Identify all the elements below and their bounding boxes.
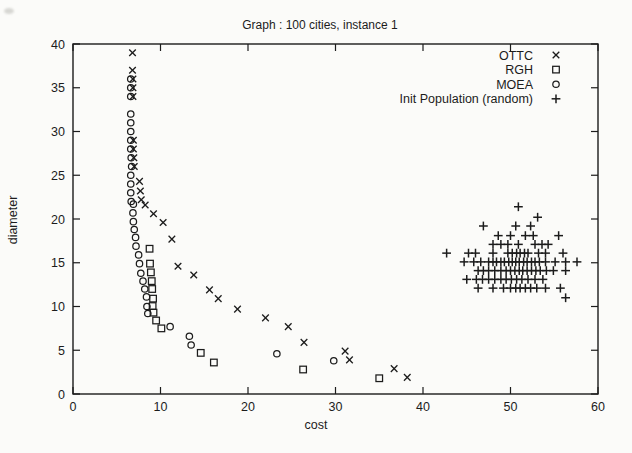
data-point [136, 178, 143, 185]
data-point [471, 249, 480, 258]
data-point [462, 275, 471, 284]
data-point [460, 257, 469, 266]
data-point [532, 284, 541, 293]
data-point [346, 357, 353, 364]
data-point [142, 202, 149, 209]
square-glyph [211, 359, 218, 366]
y-tick-label: 40 [51, 38, 65, 52]
data-point [514, 240, 523, 249]
data-point [129, 67, 136, 74]
data-point [561, 293, 570, 302]
data-point [128, 128, 134, 134]
square-glyph [158, 325, 165, 332]
y-tick-label: 30 [51, 125, 65, 139]
legend-marker-square-icon [553, 66, 560, 73]
x-tick-label: 40 [416, 400, 430, 414]
legend-label: RGH [505, 63, 533, 77]
chart-title: Graph : 100 cities, instance 1 [242, 18, 398, 32]
legend-entry-ottc: OTTC [499, 49, 559, 63]
data-point [197, 350, 204, 357]
circle-glyph [167, 323, 173, 329]
data-point [549, 266, 558, 275]
data-point [556, 284, 565, 293]
y-tick-label: 20 [51, 213, 65, 227]
legend-marker-x-icon [553, 52, 560, 59]
data-point [285, 323, 292, 330]
circle-glyph [135, 252, 141, 258]
scatter-plot: Graph : 100 cities, instance 1 cost diam… [0, 0, 632, 453]
legend-label: Init Population (random) [400, 92, 533, 106]
y-tick-label: 35 [51, 81, 65, 95]
scanned-figure-page: Graph : 100 cities, instance 1 cost diam… [0, 0, 632, 453]
square-glyph [148, 278, 155, 285]
data-point [150, 210, 157, 217]
data-point [573, 257, 582, 266]
circle-glyph [128, 111, 134, 117]
data-point [521, 231, 530, 240]
data-point [404, 374, 411, 381]
legend: OTTCRGHMOEAInit Population (random) [400, 49, 561, 107]
data-point [153, 317, 160, 324]
data-point [489, 240, 498, 249]
circle-glyph [188, 342, 194, 348]
square-glyph [150, 295, 157, 302]
data-point [442, 249, 451, 258]
data-point [300, 366, 307, 373]
data-point [376, 375, 383, 382]
data-point [526, 222, 535, 231]
x-tick-label: 10 [154, 400, 168, 414]
data-point [158, 325, 165, 332]
data-point [511, 222, 520, 231]
data-point [129, 49, 136, 56]
circle-glyph [331, 358, 337, 364]
y-tick-label: 15 [51, 256, 65, 270]
circle-glyph [133, 243, 139, 249]
y-axis-label: diameter [6, 196, 20, 245]
data-point [169, 236, 176, 243]
y-tick-label: 25 [51, 169, 65, 183]
circle-glyph [138, 270, 144, 276]
circle-glyph [553, 81, 559, 87]
circle-glyph [131, 226, 137, 232]
circle-glyph [143, 294, 149, 300]
data-point [554, 231, 563, 240]
data-point [533, 213, 542, 222]
data-point [559, 249, 568, 258]
y-tick-label: 5 [58, 344, 65, 358]
data-point [331, 358, 337, 364]
data-point [551, 257, 560, 266]
legend-marker-circle-icon [553, 81, 559, 87]
series-ottc [129, 49, 410, 380]
data-point [160, 219, 167, 226]
data-point [140, 278, 146, 284]
circle-glyph [128, 190, 134, 196]
data-point [541, 257, 550, 266]
data-point [175, 263, 182, 270]
legend-label: OTTC [499, 49, 533, 63]
data-point [544, 240, 553, 249]
data-point [538, 275, 547, 284]
x-tick-label: 50 [504, 400, 518, 414]
data-point [167, 323, 173, 329]
circle-glyph [128, 120, 134, 126]
circle-glyph [128, 181, 134, 187]
data-point [148, 278, 155, 285]
data-point [128, 190, 134, 196]
data-point [142, 286, 148, 292]
data-point [541, 284, 550, 293]
square-glyph [376, 375, 383, 382]
data-point [489, 249, 498, 258]
data-point [206, 287, 213, 294]
square-glyph [153, 317, 160, 324]
x-axis-label: cost [305, 418, 328, 432]
x-tick-label: 0 [70, 400, 77, 414]
data-point [489, 284, 498, 293]
legend-label: MOEA [496, 78, 533, 92]
data-point [130, 210, 136, 216]
data-point [541, 249, 550, 258]
y-tick-label: 10 [51, 300, 65, 314]
square-glyph [148, 269, 155, 276]
data-point [188, 342, 194, 348]
square-glyph [147, 260, 154, 267]
data-point [391, 365, 398, 372]
